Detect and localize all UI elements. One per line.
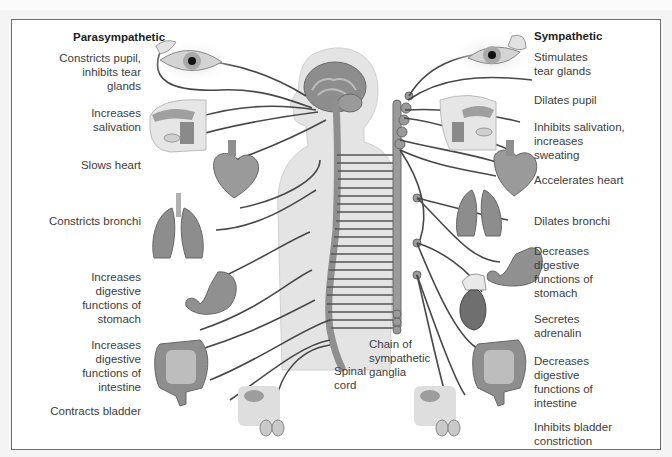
para-label-intestine: Increases digestive functions of intesti…	[82, 338, 141, 394]
symp-label-bladder: Inhibits bladder constriction	[534, 420, 612, 448]
symp-label-stomach: Decreases digestive functions of stomach	[534, 244, 593, 300]
left-heart-icon	[214, 140, 259, 198]
spinal-cord-label: Spinal cord	[334, 364, 366, 392]
symp-label-intestine: Decreases digestive functions of intesti…	[534, 354, 593, 410]
parasympathetic-header: Parasympathetic	[73, 31, 165, 43]
para-label-heart: Slows heart	[81, 158, 141, 172]
symp-label-salivation: Inhibits salivation, increases sweating	[534, 120, 625, 162]
left-stomach-icon	[186, 272, 236, 314]
left-intestine-icon	[155, 340, 208, 406]
right-head-salivary-icon	[440, 95, 496, 150]
chain-ganglia-label: Chain of sympathetic ganglia	[369, 337, 430, 379]
symp-label-heart: Accelerates heart	[534, 173, 624, 187]
symp-label-tear-glands: Stimulates tear glands	[534, 50, 591, 78]
symp-label-bronchi: Dilates bronchi	[534, 214, 610, 228]
para-label-bladder: Contracts bladder	[50, 404, 141, 418]
symp-label-adrenalin: Secretes adrenalin	[534, 312, 581, 340]
left-lungs-icon	[153, 193, 203, 258]
right-heart-icon	[494, 140, 537, 196]
para-label-stomach: Increases digestive functions of stomach	[82, 270, 141, 326]
sympathetic-ganglia-chain	[393, 92, 421, 334]
right-intestine-icon	[473, 340, 526, 406]
right-eye-icon	[450, 34, 534, 78]
left-head-salivary-icon	[150, 100, 206, 152]
sympathetic-header: Sympathetic	[534, 30, 602, 42]
para-label-eye: Constricts pupil, inhibits tear glands	[59, 51, 141, 93]
left-eye-icon	[151, 40, 235, 84]
symp-label-pupil: Dilates pupil	[534, 93, 597, 107]
left-pelvis-bladder-icon	[238, 386, 284, 436]
right-pelvis-bladder-icon	[414, 386, 460, 436]
adrenal-kidney-icon	[460, 274, 486, 330]
para-label-salivation: Increases salivation	[91, 106, 141, 134]
para-label-bronchi: Constricts bronchi	[49, 214, 141, 228]
